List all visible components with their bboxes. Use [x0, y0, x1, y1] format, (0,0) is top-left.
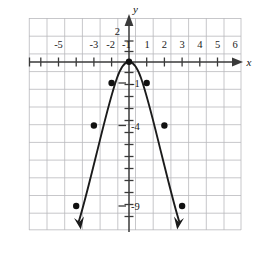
x-tick-label--3: -3 — [90, 39, 99, 50]
x-tick-label--5: -5 — [54, 39, 63, 50]
x-tick-label--2: -2 — [106, 39, 115, 50]
y-tick-label--1: -1 — [131, 78, 140, 89]
data-point — [144, 80, 150, 86]
x-tick-label-5: 5 — [215, 39, 220, 50]
x-tick-label-3: 3 — [179, 39, 184, 50]
x-tick-label--1: -1 — [122, 39, 131, 50]
graph-figure: -5 -3 -2 -1 1 2 3 4 5 6 2 -1 -4 -9 x y — [0, 0, 266, 258]
data-point — [161, 122, 167, 128]
data-point — [179, 203, 185, 209]
x-tick-label-1: 1 — [145, 39, 150, 50]
data-point — [91, 122, 97, 128]
x-tick-label-4: 4 — [197, 39, 203, 50]
x-tick-label-6: 6 — [232, 39, 237, 50]
y-tick-label--9: -9 — [131, 201, 140, 212]
x-tick-label-2: 2 — [162, 39, 167, 50]
y-axis-label: y — [132, 3, 138, 15]
y-tick-label-2: 2 — [115, 26, 120, 37]
data-point — [108, 80, 114, 86]
data-point — [73, 203, 79, 209]
x-axis-label: x — [246, 56, 252, 68]
coordinate-plane: -5 -3 -2 -1 1 2 3 4 5 6 2 -1 -4 -9 x y — [0, 0, 266, 258]
y-tick-label--4: -4 — [131, 121, 140, 132]
data-point — [126, 59, 132, 65]
